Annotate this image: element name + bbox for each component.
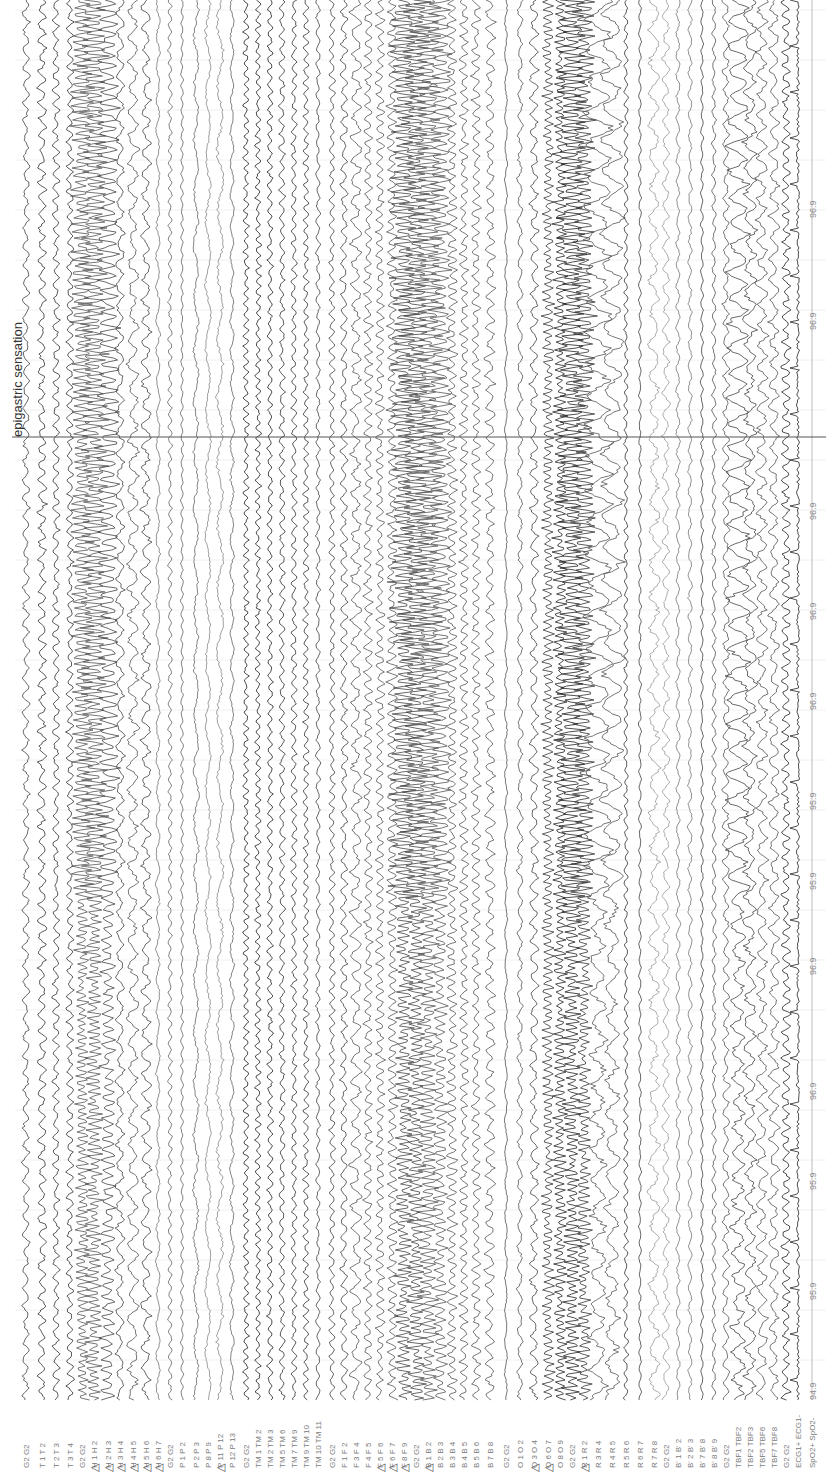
channel-label: R 3 R 4 bbox=[594, 1441, 603, 1468]
channel-label: T 3 T 4 bbox=[66, 1443, 75, 1468]
channel-label: F 1 F 2 bbox=[340, 1443, 349, 1468]
channel-label: G2 G2 bbox=[242, 1444, 251, 1468]
spo2-value: 96.9 bbox=[808, 200, 818, 218]
spo2-value: 96.9 bbox=[808, 602, 818, 620]
channel-label: TM 10 TM 11 bbox=[314, 1421, 323, 1468]
channel-label: T 2 T 3 bbox=[52, 1443, 61, 1468]
channel-label: B' 1 B' 2 bbox=[674, 1439, 683, 1468]
spo2-value: 96.9 bbox=[808, 957, 818, 975]
channel-label: P 12 P 13 bbox=[228, 1433, 237, 1468]
warning-triangle-icon: △ bbox=[88, 1464, 101, 1472]
channel-label: G2 G2 bbox=[22, 1444, 31, 1468]
warning-triangle-icon: △ bbox=[528, 1464, 541, 1472]
spo2-value: 95.9 bbox=[808, 1282, 818, 1300]
spo2-value: 96.9 bbox=[808, 502, 818, 520]
channel-label: TM 1 TM 2 bbox=[254, 1429, 263, 1468]
channel-label: B 3 B 4 bbox=[448, 1442, 457, 1468]
channel-label: R 7 R 8 bbox=[650, 1441, 659, 1468]
channel-label: G2 G2 bbox=[328, 1444, 337, 1468]
channel-label: O 8 O 9 bbox=[556, 1440, 565, 1468]
channel-label: G2 G2 bbox=[568, 1444, 577, 1468]
channel-label: TBF1 TBF2 bbox=[734, 1427, 743, 1468]
channel-label: G2 G2 bbox=[662, 1444, 671, 1468]
eeg-trace-canvas bbox=[0, 0, 826, 1473]
channel-label: R 4 R 5 bbox=[608, 1441, 617, 1468]
channel-label: TM 7 TM 9 bbox=[290, 1429, 299, 1468]
spo2-value: 95.9 bbox=[808, 1172, 818, 1190]
channel-label: TBF5 TBF6 bbox=[758, 1427, 767, 1468]
channel-label: F 4 F 5 bbox=[364, 1443, 373, 1468]
spo2-value: 96.9 bbox=[808, 692, 818, 710]
channel-label: TM 9 TM 10 bbox=[302, 1425, 311, 1468]
warning-triangle-icon: △ bbox=[152, 1464, 165, 1472]
channel-label: SpO2+ SpO2- bbox=[808, 1418, 817, 1468]
warning-triangle-icon: △ bbox=[114, 1464, 127, 1472]
warning-triangle-icon: △ bbox=[422, 1464, 435, 1472]
channel-label: TBF2 TBF3 bbox=[746, 1427, 755, 1468]
channel-label: B 2 B 3 bbox=[436, 1442, 445, 1468]
channel-label: G2 G2 bbox=[502, 1444, 511, 1468]
channel-label: G2 G2 bbox=[412, 1444, 421, 1468]
channel-label: B' 8 B' 9 bbox=[710, 1439, 719, 1468]
spo2-value: 95.9 bbox=[808, 792, 818, 810]
channel-label: TM 5 TM 6 bbox=[278, 1429, 287, 1468]
warning-triangle-icon: △ bbox=[214, 1464, 227, 1472]
channel-label: F 3 F 4 bbox=[352, 1443, 361, 1468]
channel-label: B 7 B 8 bbox=[486, 1442, 495, 1468]
channel-label: P 11 P 12 bbox=[216, 1434, 225, 1468]
channel-label: G2 G2 bbox=[722, 1444, 731, 1468]
channel-label: O 1 O 2 bbox=[516, 1440, 525, 1468]
channel-label: T 1 T 2 bbox=[38, 1443, 47, 1468]
channel-label: R 5 R 6 bbox=[622, 1441, 631, 1468]
warning-triangle-icon: △ bbox=[127, 1464, 140, 1472]
channel-label: R 6 R 7 bbox=[636, 1441, 645, 1468]
spo2-value: 94.9 bbox=[808, 1382, 818, 1400]
channel-label: B' 7 B' 8 bbox=[698, 1439, 707, 1468]
spo2-value: 96.9 bbox=[808, 312, 818, 330]
warning-triangle-icon: △ bbox=[398, 1464, 411, 1472]
channel-label: TM 2 TM 3 bbox=[266, 1429, 275, 1468]
warning-triangle-icon: △ bbox=[542, 1464, 555, 1472]
warning-triangle-icon: △ bbox=[578, 1464, 591, 1472]
channel-label: P 1 P 2 bbox=[178, 1442, 187, 1468]
channel-label: B' 2 B' 3 bbox=[686, 1439, 695, 1468]
channel-label: ECG1+ ECG1- bbox=[794, 1415, 803, 1468]
event-marker-label[interactable]: epigastric sensation bbox=[10, 322, 25, 437]
channel-label: B 4 B 5 bbox=[460, 1442, 469, 1468]
channel-label: G2 G2 bbox=[782, 1444, 791, 1468]
channel-label: B 5 B 6 bbox=[472, 1442, 481, 1468]
channel-label: G2 G2 bbox=[166, 1444, 175, 1468]
channel-label: P 8 P 9 bbox=[204, 1442, 213, 1468]
channel-label: TBF7 TBF8 bbox=[770, 1427, 779, 1468]
channel-label: G2 G2 bbox=[78, 1444, 87, 1468]
spo2-value: 96.9 bbox=[808, 1082, 818, 1100]
spo2-value: 95.9 bbox=[808, 872, 818, 890]
channel-label: P 2 P 3 bbox=[192, 1442, 201, 1468]
